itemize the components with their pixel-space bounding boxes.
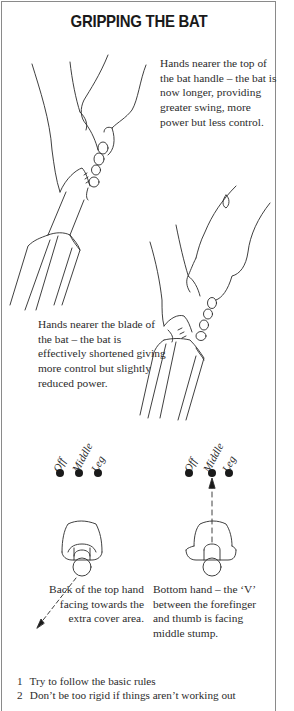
off-stump-dot — [56, 469, 64, 477]
note-item: 1 Try to follow the basic rules — [17, 674, 236, 688]
note-item: 2 Don’t be too rigid if things aren’t wo… — [17, 688, 236, 702]
middle-stump-dot — [208, 469, 216, 477]
off-stump-dot — [185, 469, 193, 477]
caption-blade-grip: Hands nearer the blade of the bat – the … — [38, 317, 166, 391]
leg-stump-dot — [94, 469, 102, 477]
bottom-hand-grip-diagram — [186, 478, 236, 576]
caption-bottom-hand: Bottom hand – the ‘V’ between the forefi… — [153, 582, 275, 641]
note-number: 2 — [17, 688, 27, 702]
note-text: Try to follow the basic rules — [30, 675, 156, 687]
note-text: Don’t be too rigid if things aren’t work… — [30, 689, 236, 701]
caption-top-grip: Hands nearer the top of the bat handle –… — [160, 56, 278, 130]
middle-stump-dot — [75, 469, 83, 477]
note-number: 1 — [17, 674, 27, 688]
notes-list: 1 Try to follow the basic rules 2 Don’t … — [17, 674, 236, 702]
top-grip-illustration — [10, 55, 146, 310]
leg-stump-dot — [225, 469, 233, 477]
caption-back-of-hand: Back of the top hand facing towards the … — [44, 582, 144, 626]
